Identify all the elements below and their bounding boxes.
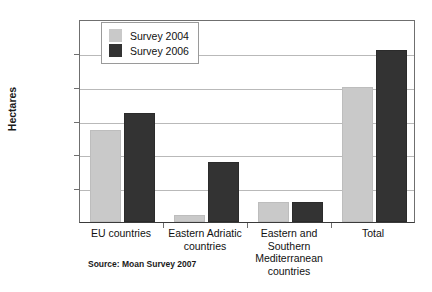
x-axis-label-line: Eastern Adriatic xyxy=(157,227,253,240)
legend-item: Survey 2006 xyxy=(109,43,189,58)
y-tick-mark xyxy=(74,189,79,190)
x-axis-label-line: countries xyxy=(157,240,253,253)
x-axis-label-line: Mediterranean xyxy=(241,252,337,265)
x-axis-label-line: Eastern and xyxy=(241,227,337,240)
bar xyxy=(174,215,205,222)
legend-label-survey-2006: Survey 2006 xyxy=(130,45,189,57)
source-note: Source: Moan Survey 2007 xyxy=(88,259,196,269)
bar xyxy=(90,130,121,222)
x-axis-label: Eastern Adriaticcountries xyxy=(157,227,253,252)
bar-chart: Hectares 01'000'0002'000'0003'000'0004'0… xyxy=(0,0,432,292)
bar xyxy=(124,113,155,222)
bar xyxy=(342,87,373,222)
bar xyxy=(376,50,407,222)
bar xyxy=(292,202,323,222)
legend: Survey 2004 Survey 2006 xyxy=(101,22,199,64)
y-tick-mark xyxy=(74,122,79,123)
x-axis-label: EU countries xyxy=(73,227,169,240)
y-tick-mark xyxy=(74,54,79,55)
bar xyxy=(258,202,289,222)
legend-label-survey-2004: Survey 2004 xyxy=(130,30,189,42)
x-axis-label: Eastern andSouthernMediterraneancountrie… xyxy=(241,227,337,277)
x-axis-label-line: Total xyxy=(325,227,421,240)
x-axis-label: Total xyxy=(325,227,421,240)
legend-item: Survey 2004 xyxy=(109,28,189,43)
x-axis-label-line: Southern xyxy=(241,240,337,253)
legend-swatch-survey-2006 xyxy=(109,44,122,57)
legend-swatch-survey-2004 xyxy=(109,29,122,42)
x-axis-label-line: EU countries xyxy=(73,227,169,240)
x-axis-label-line: countries xyxy=(241,265,337,278)
y-tick-mark xyxy=(74,88,79,89)
y-tick-mark xyxy=(74,155,79,156)
bar xyxy=(208,162,239,222)
y-axis-title: Hectares xyxy=(6,79,18,139)
